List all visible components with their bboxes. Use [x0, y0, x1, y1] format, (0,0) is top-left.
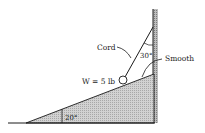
cord-leader-arrow — [117, 47, 131, 58]
ball — [119, 76, 127, 84]
cord-label: Cord — [97, 43, 116, 52]
incline-angle-label: 20° — [65, 114, 77, 122]
weight-label: W = 5 lb — [82, 77, 115, 86]
incline-ball-diagram: 20° 30° Cord Smooth W = 5 lb — [0, 0, 205, 133]
cord-angle-label: 30° — [140, 52, 152, 60]
smooth-label: Smooth — [165, 54, 194, 63]
cord-angle-arc — [144, 43, 153, 45]
